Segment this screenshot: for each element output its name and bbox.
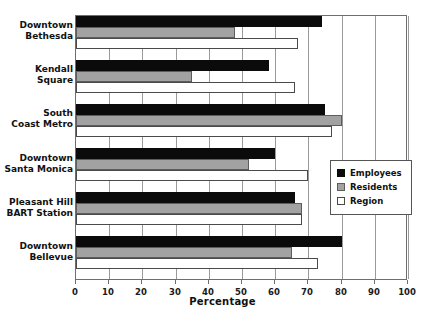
bar-residents-3 [76,115,342,126]
bar-chart: DowntownBethesdaKendallSquareSouthCoast … [0,0,445,321]
bar-residents-5 [76,203,302,214]
category-label-5: Pleasant HillBART Station [0,197,73,219]
bar-employees-4 [76,148,275,159]
category-label-4: DowntownSanta Monica [0,153,73,175]
legend-swatch-employees-icon [337,169,345,177]
x-tick-mark [274,280,275,284]
x-axis-title: Percentage [0,296,445,307]
bar-region-1 [76,38,298,49]
x-tick-mark [407,280,408,284]
category-label-line: Bethesda [0,31,73,42]
x-tick-mark [341,280,342,284]
category-label-line: BART Station [0,208,73,219]
category-label-line: Coast Metro [0,119,73,130]
x-tick-mark [75,280,76,284]
bar-employees-6 [76,236,342,247]
bar-residents-4 [76,159,249,170]
x-tick-mark [307,280,308,284]
category-label-line: Pleasant Hill [0,197,73,208]
bar-region-2 [76,82,295,93]
chart-legend: EmployeesResidentsRegion [330,160,412,215]
category-label-line: Downtown [0,241,73,252]
x-tick-mark [175,280,176,284]
category-label-line: Santa Monica [0,164,73,175]
gridline [342,16,343,279]
legend-item-region[interactable]: Region [337,194,405,208]
bar-region-6 [76,258,318,269]
category-label-line: Kendall [0,64,73,75]
category-label-2: KendallSquare [0,64,73,86]
x-tick-mark [241,280,242,284]
x-tick-mark [108,280,109,284]
bar-region-4 [76,170,308,181]
category-label-1: DowntownBethesda [0,20,73,42]
x-tick-mark [374,280,375,284]
gridline [408,16,409,279]
x-tick-mark [208,280,209,284]
bar-employees-1 [76,16,322,27]
bar-employees-5 [76,192,295,203]
category-label-3: SouthCoast Metro [0,108,73,130]
plot-area [75,15,407,280]
bar-residents-6 [76,247,292,258]
category-label-line: Square [0,75,73,86]
category-label-line: South [0,108,73,119]
legend-label: Region [350,196,383,206]
gridline [375,16,376,279]
bar-residents-2 [76,71,192,82]
legend-label: Employees [350,168,402,178]
bar-region-3 [76,126,332,137]
category-label-line: Bellevue [0,252,73,263]
legend-swatch-region-icon [337,197,345,205]
x-tick-mark [141,280,142,284]
bar-residents-1 [76,27,235,38]
category-label-line: Downtown [0,20,73,31]
category-label-line: Downtown [0,153,73,164]
legend-item-residents[interactable]: Residents [337,180,405,194]
bar-region-5 [76,214,302,225]
bar-employees-2 [76,60,269,71]
legend-swatch-residents-icon [337,183,345,191]
legend-label: Residents [350,182,397,192]
legend-item-employees[interactable]: Employees [337,166,405,180]
bar-employees-3 [76,104,325,115]
category-label-6: DowntownBellevue [0,241,73,263]
